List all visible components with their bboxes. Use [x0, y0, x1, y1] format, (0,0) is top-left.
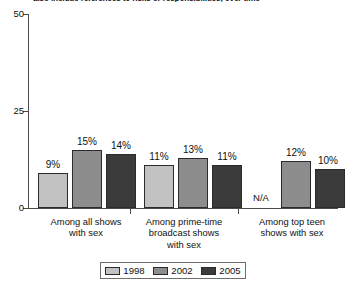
- bar-2002-all-shows: [72, 150, 102, 208]
- category-label-prime-time: Among prime-time broadcast shows with se…: [133, 216, 235, 250]
- bar-1998-all-shows: [38, 173, 68, 208]
- bar-2002-prime-time: [178, 158, 208, 208]
- category-label-top-teen-line1: Among top teen: [242, 216, 342, 227]
- legend-swatch-2002-icon: [153, 267, 168, 275]
- bar-value-2002-all-shows: 15%: [72, 137, 102, 147]
- category-label-top-teen: Among top teen shows with sex: [242, 216, 342, 239]
- bar-value-2002-top-teen: 12%: [281, 148, 311, 158]
- x-axis-separator-2: [238, 209, 239, 214]
- category-label-all-shows-line1: Among all shows: [24, 216, 148, 227]
- bar-value-2002-prime-time: 13%: [178, 145, 208, 155]
- x-axis-line: [28, 208, 338, 209]
- bar-2005-top-teen: [315, 169, 345, 208]
- bar-value-1998-all-shows: 9%: [38, 160, 68, 170]
- legend-swatch-2005-icon: [201, 267, 216, 275]
- bar-value-2005-top-teen: 10%: [313, 156, 343, 166]
- category-label-all-shows-line2: with sex: [24, 227, 148, 238]
- y-axis-label-25: 25: [0, 106, 24, 116]
- legend-item-2005: 2005: [201, 266, 240, 276]
- bar-value-2005-prime-time: 11%: [212, 152, 242, 162]
- category-label-top-teen-line2: shows with sex: [242, 227, 342, 238]
- chart-legend: 1998 2002 2005: [100, 262, 246, 279]
- bar-2002-top-teen: [281, 161, 311, 208]
- bar-value-1998-top-teen: N/A: [246, 193, 276, 203]
- legend-label-1998: 1998: [123, 266, 144, 276]
- y-axis-label-50: 50: [0, 9, 24, 19]
- bar-value-2005-all-shows: 14%: [106, 141, 136, 151]
- legend-item-1998: 1998: [105, 266, 144, 276]
- category-label-prime-time-line2: broadcast shows: [133, 227, 235, 238]
- bar-2005-all-shows: [106, 154, 136, 208]
- category-label-all-shows: Among all shows with sex: [24, 216, 148, 239]
- category-label-prime-time-line1: Among prime-time: [133, 216, 235, 227]
- bar-2005-prime-time: [212, 165, 242, 208]
- legend-item-2002: 2002: [153, 266, 192, 276]
- legend-swatch-1998-icon: [105, 267, 120, 275]
- bar-value-1998-prime-time: 11%: [144, 152, 174, 162]
- legend-label-2005: 2005: [219, 266, 240, 276]
- y-axis-line: [28, 14, 29, 209]
- category-label-prime-time-line3: with sex: [133, 239, 235, 250]
- x-axis-separator-1: [130, 209, 131, 214]
- y-axis-label-0: 0: [0, 203, 24, 213]
- legend-label-2002: 2002: [171, 266, 192, 276]
- bar-1998-prime-time: [144, 165, 174, 208]
